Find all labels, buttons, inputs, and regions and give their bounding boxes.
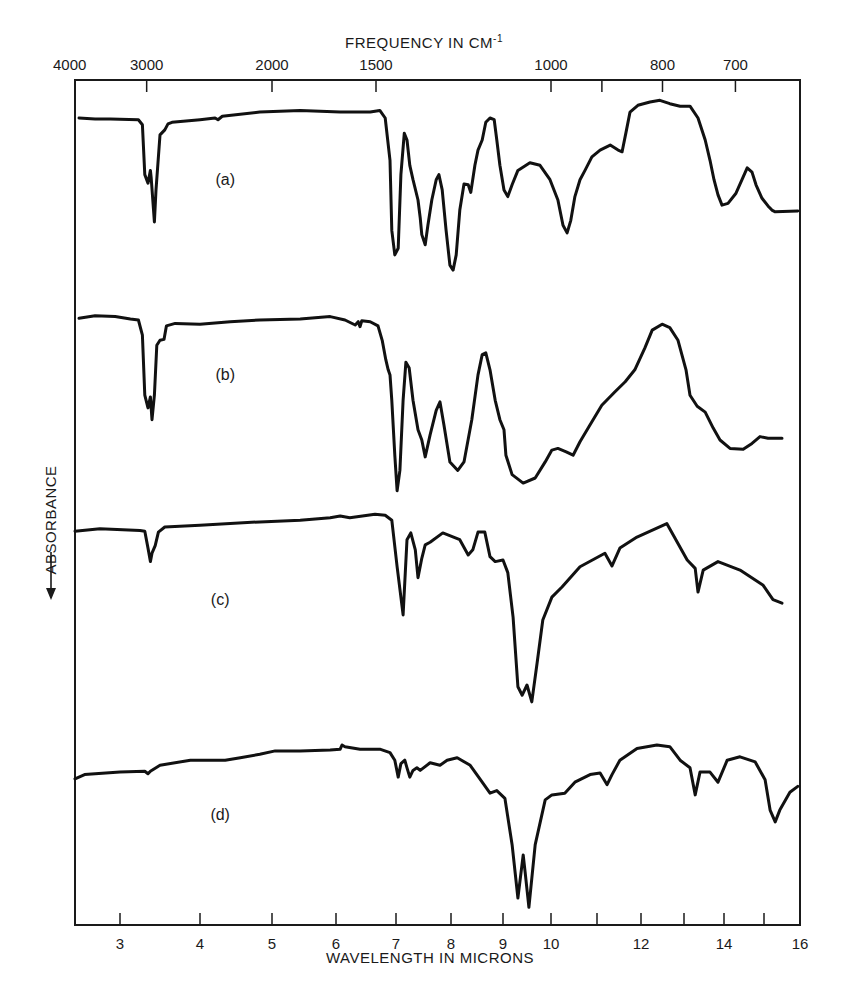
spectrum-trace-a [79,100,798,270]
top-axis-label: FREQUENCY IN CM-1 [345,33,503,51]
x-tick-label: 12 [633,935,650,952]
x-tick-label: 3 [116,935,124,952]
spectrum-traces [75,100,798,907]
x-tick-label: 5 [268,935,276,952]
trace-label-c: (c) [211,591,230,608]
top-tick-label: 4000 [53,56,86,73]
top-tick-label: 1500 [359,56,392,73]
x-tick-label: 4 [196,935,204,952]
spectrum-trace-b [79,316,782,491]
top-tick-label: 800 [650,56,675,73]
trace-label-b: (b) [215,366,235,383]
plot-frame [75,80,800,925]
top-tick-label: 2000 [255,56,288,73]
top-axis-ticks: 40003000200015001000800700 [53,56,748,92]
x-axis-label: WAVELENGTH IN MICRONS [326,949,534,966]
trace-label-d: (d) [210,806,230,823]
x-tick-label: 16 [792,935,809,952]
top-tick-label: 700 [723,56,748,73]
spectrum-trace-c [75,514,782,702]
trace-labels: (a)(b)(c)(d) [210,171,235,823]
y-axis-title: ABSORBANCE [42,465,59,600]
top-axis-title: FREQUENCY IN CM-1 [345,33,503,51]
x-tick-label: 10 [543,935,560,952]
top-tick-label: 1000 [534,56,567,73]
spectrum-trace-d [75,745,798,907]
ir-spectra-chart: FREQUENCY IN CM-1 4000300020001500100080… [0,0,848,1001]
bottom-axis-ticks: 345678910121416 [116,913,809,952]
top-tick-label: 3000 [130,56,163,73]
x-tick-label: 14 [716,935,733,952]
trace-label-a: (a) [215,171,235,188]
